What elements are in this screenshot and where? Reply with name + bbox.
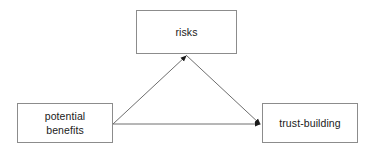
node-potential-benefits-label: potential benefits [45,109,86,137]
node-trust-building[interactable]: trust-building [262,103,358,143]
diagram-canvas: risks potential benefits trust-building [0,0,374,158]
edge-benefits-to-risks [113,56,186,124]
edge-risks-to-trust-building [186,55,260,124]
node-risks[interactable]: risks [136,10,237,54]
node-risks-label: risks [175,25,197,39]
node-potential-benefits[interactable]: potential benefits [17,103,113,143]
node-trust-building-label: trust-building [279,116,341,130]
